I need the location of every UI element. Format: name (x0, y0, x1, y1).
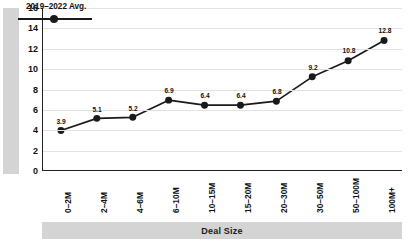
data-point-marker (273, 98, 280, 105)
data-point-label: 9.2 (308, 65, 317, 72)
x-axis-tick-label: 100M+ (388, 187, 396, 213)
y-axis-tick-label: 0 (21, 167, 38, 176)
data-point-marker (129, 114, 136, 121)
y-axis-tick-label: 12 (21, 44, 38, 53)
data-point-marker (165, 97, 172, 104)
x-axis-tick-label: 15–20M (244, 183, 252, 213)
data-point-marker (237, 102, 244, 109)
plot-area: 3.95.15.26.96.46.46.89.210.812.8 (42, 8, 402, 171)
x-axis-tick-label: 6–10M (172, 187, 180, 213)
data-point-label: 3.9 (56, 119, 65, 126)
x-axis-title-band: Deal Size (42, 222, 402, 239)
data-point-label: 12.8 (379, 29, 392, 36)
y-axis-tick-label: 14 (21, 24, 38, 33)
y-axis-title: Avg. EBITDA Multiple (3, 0, 19, 24)
y-axis-tick-label: 8 (21, 85, 38, 94)
x-axis-title: Deal Size (201, 226, 242, 236)
gridline (43, 151, 402, 152)
gridline (43, 69, 402, 70)
data-point-marker (381, 37, 388, 44)
x-axis-tick-label: 30–50M (316, 183, 324, 213)
legend: 2019–2022 Avg. (18, 2, 138, 23)
data-point-marker (201, 102, 208, 109)
data-point-label: 6.4 (236, 94, 245, 101)
data-point-marker (309, 73, 316, 80)
y-axis-tick-label: 2 (21, 146, 38, 155)
data-point-label: 6.4 (200, 94, 209, 101)
x-axis-tick-label: 2–4M (100, 192, 108, 213)
legend-entry-marker (18, 14, 92, 23)
data-point-label: 6.9 (164, 89, 173, 96)
data-point-marker (93, 115, 100, 122)
data-point-label: 10.8 (343, 49, 356, 56)
y-axis-tick-labels: 0246810121416 (21, 0, 38, 251)
y-axis-tick-label: 6 (21, 105, 38, 114)
x-axis-tick-labels: 0–2M2–4M4–6M6–10M10–15M15–20M20–30M30–50… (42, 173, 402, 215)
x-axis-tick-label: 20–30M (280, 183, 288, 213)
gridline (43, 130, 402, 131)
data-point-label: 6.8 (272, 90, 281, 97)
data-point-label: 5.2 (128, 106, 137, 113)
x-axis-tick-label: 0–2M (64, 192, 72, 213)
y-axis-tick-label: 4 (21, 126, 38, 135)
y-axis-tick-label: 10 (21, 65, 38, 74)
gridline (43, 28, 402, 29)
series-line (61, 40, 384, 130)
x-axis-tick-label: 4–6M (136, 192, 144, 213)
data-point-label: 5.1 (92, 107, 101, 114)
legend-entry-label: 2019–2022 Avg. (18, 2, 138, 11)
x-axis-tick-label: 10–15M (208, 183, 216, 213)
gridline (43, 90, 402, 91)
chart-container: Avg. EBITDA Multiple 0246810121416 3.95.… (0, 0, 408, 251)
legend-dot-icon (50, 15, 58, 23)
x-axis-tick-label: 50–100M (352, 178, 360, 213)
data-point-marker (345, 57, 352, 64)
y-axis-title-band (3, 8, 19, 174)
